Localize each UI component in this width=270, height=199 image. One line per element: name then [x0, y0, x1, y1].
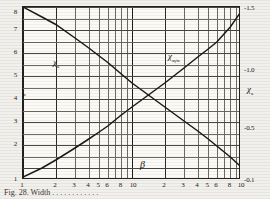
- ytick-right-0-5: -0.5: [244, 124, 254, 132]
- ytick-left-2: 2: [3, 140, 17, 148]
- curve-chi-decreasing: [23, 7, 240, 166]
- chi-ratio-curve-label: χaγ/α: [168, 51, 179, 63]
- ytick-left-7: 7: [3, 25, 17, 33]
- right-axis-title: χa: [247, 84, 253, 96]
- ytick-left-4: 4: [3, 94, 17, 102]
- ytick-right-0-1: -0.1: [244, 176, 254, 184]
- ytick-left-5: 5: [3, 71, 17, 79]
- chi-left-axis-curve-label: χaγ/α: [22, 85, 25, 97]
- figure-caption: Fig. 28. Width . . . . . . . . . . . .: [4, 188, 266, 199]
- ytick-left-8: 8: [3, 8, 17, 16]
- plot-area: χa χaγ/α χaγ/α β: [22, 6, 240, 179]
- chi-a-curve-label: χa: [53, 57, 59, 69]
- ytick-left-3: 3: [3, 117, 17, 125]
- ytick-left-6: 6: [3, 48, 17, 56]
- ytick-left-1: 1: [3, 175, 17, 183]
- figure-panel: χa χaγ/α χaγ/α β 1 2 3 4 5 6 8 10 2 3 4 …: [0, 0, 270, 199]
- ytick-right-1-0: -1.0: [244, 66, 254, 74]
- curve-group: [23, 7, 240, 179]
- ytick-right-1-5: -1.5: [244, 4, 254, 12]
- curve-chi-increasing: [23, 13, 240, 177]
- beta-axis-label: β: [140, 159, 145, 170]
